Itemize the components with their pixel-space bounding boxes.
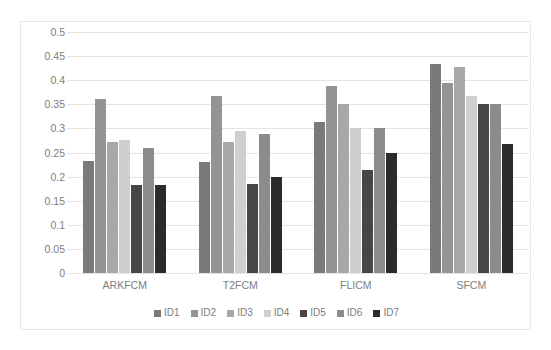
bar-sfcm-id7 xyxy=(502,144,513,273)
bar-flicm-id6 xyxy=(374,128,385,273)
bar-flicm-id2 xyxy=(326,86,337,273)
bar-sfcm-id5 xyxy=(478,104,489,273)
legend-label: ID4 xyxy=(274,308,290,318)
bar-plot-area xyxy=(67,32,529,273)
legend-item-id4[interactable]: ID4 xyxy=(264,308,290,318)
legend-item-id2[interactable]: ID2 xyxy=(191,308,217,318)
bar-t2fcm-id4 xyxy=(235,131,246,273)
bar-arkfcm-id1 xyxy=(83,161,94,273)
y-axis-tick-label: 0.1 xyxy=(27,220,65,231)
bar-sfcm-id6 xyxy=(490,104,501,273)
bar-flicm-id1 xyxy=(314,122,325,273)
y-axis-tick-label: 0.45 xyxy=(27,51,65,62)
legend-label: ID5 xyxy=(310,308,326,318)
bar-sfcm-id2 xyxy=(442,83,453,273)
bar-sfcm-id1 xyxy=(430,64,441,273)
legend-swatch-icon xyxy=(373,310,380,317)
bar-flicm-id3 xyxy=(338,104,349,273)
y-axis-tick-label: 0.2 xyxy=(27,171,65,182)
legend-item-id5[interactable]: ID5 xyxy=(300,308,326,318)
legend-swatch-icon xyxy=(154,310,161,317)
x-axis-tick-label: SFCM xyxy=(414,275,530,297)
legend-swatch-icon xyxy=(300,310,307,317)
chart-legend: ID1ID2ID3ID4ID5ID6ID7 xyxy=(21,303,532,323)
y-axis-tick-label: 0.3 xyxy=(27,123,65,134)
bar-arkfcm-id3 xyxy=(107,142,118,273)
legend-swatch-icon xyxy=(264,310,271,317)
bar-group-t2fcm xyxy=(183,32,299,273)
chart-plot-wrapper: 0.50.450.40.350.30.250.20.150.10.050 ARK… xyxy=(21,22,532,331)
bar-t2fcm-id6 xyxy=(259,134,270,273)
y-axis-tick-label: 0.4 xyxy=(27,75,65,86)
bar-flicm-id5 xyxy=(362,170,373,273)
legend-label: ID1 xyxy=(164,308,180,318)
x-axis: ARKFCMT2FCMFLICMSFCM xyxy=(67,275,529,297)
legend-swatch-icon xyxy=(337,310,344,317)
bar-flicm-id7 xyxy=(386,153,397,273)
legend-swatch-icon xyxy=(227,310,234,317)
bar-t2fcm-id5 xyxy=(247,184,258,273)
bar-arkfcm-id5 xyxy=(131,185,142,273)
bar-group-arkfcm xyxy=(67,32,183,273)
legend-item-id6[interactable]: ID6 xyxy=(337,308,363,318)
y-axis-tick-label: 0.5 xyxy=(27,27,65,38)
legend-item-id1[interactable]: ID1 xyxy=(154,308,180,318)
legend-label: ID7 xyxy=(383,308,399,318)
gridline xyxy=(67,273,529,274)
bar-arkfcm-id4 xyxy=(119,140,130,274)
y-axis-tick-label: 0.35 xyxy=(27,99,65,110)
chart-container: 0.50.450.40.350.30.250.20.150.10.050 ARK… xyxy=(20,21,531,330)
bar-group-flicm xyxy=(298,32,414,273)
bar-sfcm-id3 xyxy=(454,67,465,273)
bar-group-sfcm xyxy=(414,32,530,273)
legend-item-id7[interactable]: ID7 xyxy=(373,308,399,318)
bar-t2fcm-id3 xyxy=(223,142,234,273)
y-axis-tick-label: 0.15 xyxy=(27,195,65,206)
legend-label: ID6 xyxy=(347,308,363,318)
bar-t2fcm-id1 xyxy=(199,162,210,273)
bar-flicm-id4 xyxy=(350,128,361,273)
y-axis-tick-label: 0.05 xyxy=(27,244,65,255)
legend-label: ID2 xyxy=(201,308,217,318)
y-axis: 0.50.450.40.350.30.250.20.150.10.050 xyxy=(21,22,65,331)
bar-t2fcm-id2 xyxy=(211,96,222,273)
legend-item-id3[interactable]: ID3 xyxy=(227,308,253,318)
x-axis-tick-label: ARKFCM xyxy=(67,275,183,297)
legend-swatch-icon xyxy=(191,310,198,317)
bar-arkfcm-id7 xyxy=(155,185,166,273)
x-axis-tick-label: T2FCM xyxy=(183,275,299,297)
bar-sfcm-id4 xyxy=(466,96,477,273)
bar-arkfcm-id2 xyxy=(95,99,106,273)
legend-label: ID3 xyxy=(237,308,253,318)
y-axis-tick-label: 0.25 xyxy=(27,147,65,158)
bar-t2fcm-id7 xyxy=(271,177,282,273)
x-axis-tick-label: FLICM xyxy=(298,275,414,297)
bar-arkfcm-id6 xyxy=(143,148,154,273)
y-axis-tick-label: 0 xyxy=(27,268,65,279)
